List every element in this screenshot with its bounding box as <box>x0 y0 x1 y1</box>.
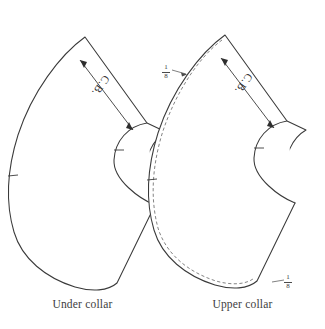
fraction-numerator: 1 <box>282 274 294 281</box>
upper-collar-leader-top <box>172 70 186 74</box>
seam-allowance-label-bottom: 1 8 <box>282 274 294 290</box>
under-collar-caption: Under collar <box>0 298 165 310</box>
fraction-denominator: 8 <box>160 73 172 80</box>
pattern-canvas <box>0 0 325 329</box>
fraction-denominator: 8 <box>282 283 294 290</box>
upper-collar-caption: Upper collar <box>160 298 325 310</box>
pattern-diagram: C.B. C.B. 1 8 1 8 Under collar Upper col… <box>0 0 325 329</box>
seam-allowance-label-top: 1 8 <box>160 64 172 80</box>
fraction-numerator: 1 <box>160 64 172 71</box>
under-collar-piece <box>8 37 166 290</box>
